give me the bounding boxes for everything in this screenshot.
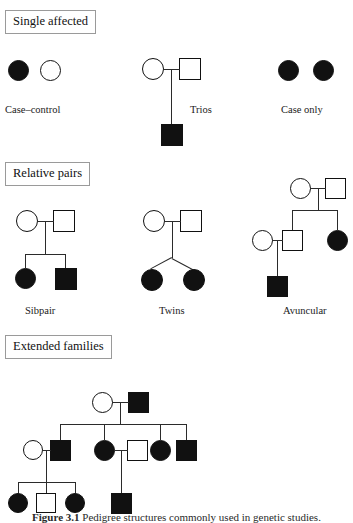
twins-mother — [143, 210, 165, 232]
sibpair-stem-right — [65, 254, 66, 268]
extended-stem-grandchild-1 — [18, 482, 19, 493]
trios-descent-line — [171, 69, 172, 124]
twins-father — [180, 210, 202, 232]
avuncular-sibship-line — [292, 210, 337, 211]
extended-stem-grandchild-3 — [75, 482, 76, 493]
twins-diagonal-right — [172, 258, 194, 270]
sibpair-stem-left — [25, 254, 26, 268]
extended-sibship-line-gen2 — [60, 424, 186, 425]
extended-grandchild-3 — [65, 493, 85, 513]
extended-descent-line-left — [46, 450, 47, 482]
pedigree-figure: Single affected Case–control Trios Case … — [0, 0, 353, 523]
avuncular-affected-nephew — [267, 276, 288, 297]
case-control-case-female — [8, 60, 29, 81]
trios-affected-child — [161, 124, 183, 146]
design-label-twins: Twins — [159, 305, 185, 317]
figure-caption-text: Pedigree structures commonly used in gen… — [82, 511, 321, 523]
avuncular-affected-aunt — [327, 230, 348, 251]
extended-stem-grandchild-2 — [46, 482, 47, 493]
design-label-avuncular: Avuncular — [283, 305, 327, 317]
extended-descent-line-gen1 — [120, 402, 121, 424]
sibpair-affected-daughter — [15, 268, 36, 289]
avuncular-stem-aunt — [337, 210, 338, 230]
avuncular-son — [282, 230, 303, 251]
section-label-extended-families: Extended families — [5, 335, 112, 359]
twins-affected-twin-2 — [183, 269, 205, 291]
figure-caption-number: Figure 3.1 — [32, 511, 79, 523]
case-only-female-2 — [313, 60, 334, 81]
design-label-trios: Trios — [190, 104, 212, 116]
twins-descent-line — [172, 221, 173, 258]
sibpair-sibship-line — [25, 254, 66, 255]
section-label-single-affected: Single affected — [5, 10, 96, 34]
avuncular-descent-line-2 — [277, 240, 278, 276]
trios-mother — [142, 58, 164, 80]
extended-stem-son-1 — [60, 424, 61, 440]
avuncular-son-spouse — [252, 230, 273, 251]
extended-founder-father — [128, 392, 149, 413]
extended-spouse-middle — [127, 440, 148, 461]
extended-stem-daughter-1 — [104, 424, 105, 440]
avuncular-stem-son — [292, 210, 293, 230]
extended-grandchild-2 — [36, 493, 56, 513]
extended-descent-line-middle — [121, 450, 122, 493]
sibpair-mother — [16, 210, 38, 232]
design-label-case-control: Case–control — [5, 104, 60, 116]
trios-father — [179, 58, 201, 80]
extended-son-1 — [50, 440, 71, 461]
case-only-female-1 — [278, 60, 299, 81]
extended-daughter-1 — [94, 440, 115, 461]
extended-son-2 — [176, 440, 197, 461]
case-control-control-female — [40, 60, 61, 81]
extended-founder-mother — [92, 392, 113, 413]
sibpair-affected-son — [55, 268, 77, 290]
avuncular-grandfather — [325, 178, 346, 199]
extended-spouse-left — [23, 440, 43, 460]
section-label-relative-pairs: Relative pairs — [5, 162, 90, 186]
extended-daughter-2 — [150, 440, 171, 461]
avuncular-grandmother — [290, 178, 311, 199]
design-label-case-only: Case only — [281, 104, 323, 116]
twins-affected-twin-1 — [141, 269, 163, 291]
extended-stem-son-2 — [186, 424, 187, 440]
extended-grandchild-1 — [8, 493, 28, 513]
avuncular-descent-line-1 — [318, 188, 319, 210]
sibpair-father — [53, 210, 75, 232]
extended-stem-daughter-2 — [160, 424, 161, 440]
figure-caption: Figure 3.1 Pedigree structures commonly … — [0, 511, 353, 523]
sibpair-descent-line — [45, 221, 46, 254]
design-label-sibpair: Sibpair — [25, 305, 55, 317]
twins-diagonal-left — [150, 257, 172, 269]
